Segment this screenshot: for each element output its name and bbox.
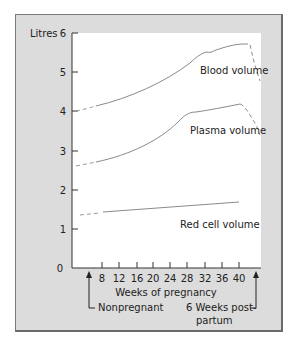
nonpregnant-arrow-icon (86, 271, 92, 278)
x-tick-28: 28 (181, 273, 194, 284)
red-cell-volume-label: Red cell volume (180, 219, 260, 230)
x-tick-20: 20 (147, 273, 160, 284)
y-tick-3: 3 (60, 146, 66, 157)
x-tick-24: 24 (164, 273, 177, 284)
y-tick-1: 1 (60, 224, 66, 235)
chart-svg: Litres 6 5 4 3 2 1 0 8 12 16 20 24 28 32… (0, 0, 294, 346)
x-tick-36: 36 (216, 273, 229, 284)
y-tick-6: 6 (60, 28, 66, 39)
x-tick-40: 40 (233, 273, 246, 284)
postpartum-label-line2: partum (196, 315, 233, 326)
blood-volume-label: Blood volume (200, 65, 268, 76)
postpartum-arrow-icon (253, 271, 259, 278)
nonpregnant-label: Nonpregnant (98, 302, 163, 313)
x-tick-32: 32 (199, 273, 212, 284)
y-tick-0: 0 (57, 263, 63, 274)
x-axis-title: Weeks of pregnancy (115, 287, 217, 298)
x-tick-12: 12 (113, 273, 126, 284)
x-tick-8: 8 (99, 273, 105, 284)
y-tick-4: 4 (60, 106, 66, 117)
postpartum-label-line1: 6 Weeks post- (186, 302, 257, 313)
y-tick-5: 5 (60, 67, 66, 78)
y-axis-title: Litres (30, 28, 58, 39)
x-tick-16: 16 (131, 273, 144, 284)
plasma-volume-label: Plasma volume (190, 125, 266, 136)
y-tick-2: 2 (60, 185, 66, 196)
